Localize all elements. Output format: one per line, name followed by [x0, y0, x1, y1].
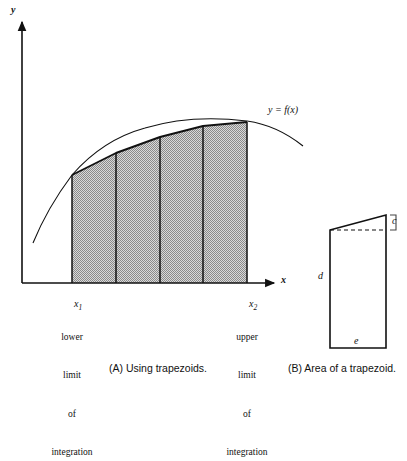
lower-limit-line-4: integration	[28, 446, 116, 459]
trapezoid-strip-3	[160, 126, 203, 283]
trapezoid-strip-4	[203, 122, 247, 283]
panel-b-caption: (B) Area of a trapezoid.	[288, 362, 396, 374]
upper-limit-line-2: limit	[203, 369, 291, 382]
upper-limit-line-1: upper	[203, 331, 291, 344]
curve-equation-label: y = f(x)	[268, 104, 298, 116]
lower-limit-line-3: of	[28, 408, 116, 421]
lower-limit-caption: lower limit of integration	[28, 305, 116, 461]
lower-limit-line-1: lower	[28, 331, 116, 344]
x-axis-label: x	[281, 274, 286, 286]
panel-a-graphic	[22, 22, 303, 283]
upper-limit-line-4: integration	[203, 446, 291, 459]
trapezoid-shape	[330, 215, 386, 348]
trapezoid-strip-2	[116, 137, 160, 283]
panel-a-caption: (A) Using trapezoids.	[109, 362, 207, 374]
y-axis-label: y	[11, 4, 15, 16]
upper-limit-caption: upper limit of integration	[203, 305, 291, 461]
label-c: c	[392, 215, 396, 227]
label-d: d	[318, 270, 323, 282]
label-e: e	[354, 335, 358, 347]
lower-limit-line-2: limit	[28, 369, 116, 382]
panel-b-graphic	[330, 215, 396, 348]
upper-limit-line-3: of	[203, 408, 291, 421]
